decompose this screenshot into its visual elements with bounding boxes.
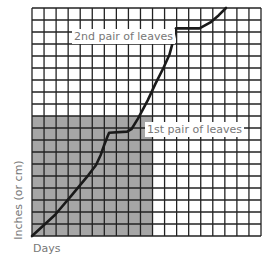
annotation-second-leaves: 2nd pair of leaves (72, 29, 175, 44)
annotation-first-leaves: 1st pair of leaves (145, 122, 244, 137)
y-axis-label: Inches (or cm) (12, 160, 25, 239)
x-axis-label: Days (33, 242, 60, 255)
